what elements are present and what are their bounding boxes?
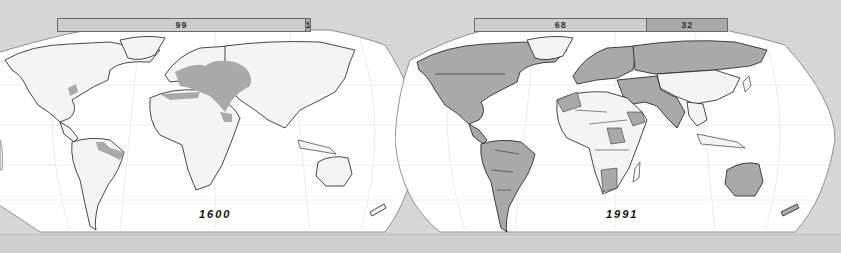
- australia: [725, 163, 763, 196]
- map-panel-1991: 68 32 1991: [395, 0, 841, 253]
- bar-segment-unshaded: 68: [475, 19, 646, 31]
- africa-shaded-south: [601, 168, 617, 192]
- australia: [316, 157, 352, 186]
- year-label-1991: 1991: [606, 208, 638, 220]
- percentage-bar-1991: 68 32: [474, 18, 728, 32]
- bar-segment-unshaded: 99: [58, 19, 305, 31]
- map-panel-1600: 99 1 1600: [0, 0, 420, 253]
- percentage-bar-1600: 99 1: [57, 18, 311, 32]
- bar-segment-shaded: 32: [646, 19, 727, 31]
- bar-segment-shaded: 1: [305, 19, 310, 31]
- year-label-1600: 1600: [199, 208, 231, 220]
